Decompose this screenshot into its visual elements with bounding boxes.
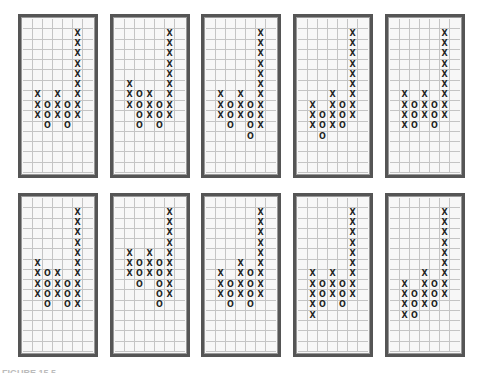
grid-cell — [328, 142, 338, 152]
grid-cell — [23, 50, 33, 60]
grid-cell — [390, 50, 400, 60]
grid-cell — [390, 321, 400, 331]
grid-cell — [318, 229, 328, 239]
grid-cell — [125, 321, 135, 331]
grid-cell — [23, 101, 33, 111]
grid-cell — [216, 60, 226, 70]
grid-cell — [308, 40, 318, 50]
pnf-chart-panel-3: XXXXXXXXXXOXOXXOXOXOOXO — [201, 14, 281, 178]
grid-cell — [63, 152, 73, 162]
grid-cell — [175, 311, 185, 321]
grid-cell — [246, 321, 256, 331]
x-mark: X — [348, 280, 358, 290]
grid-cell — [390, 19, 400, 29]
grid-cell — [23, 111, 33, 121]
grid-cell — [328, 249, 338, 259]
grid-cell — [206, 208, 216, 218]
grid-cell — [266, 40, 276, 50]
grid-cell — [125, 152, 135, 162]
x-mark: X — [420, 101, 430, 111]
o-mark: O — [246, 101, 256, 111]
grid-cell — [115, 311, 125, 321]
x-mark: X — [348, 249, 358, 259]
x-mark: X — [125, 91, 135, 101]
grid-cell — [145, 19, 155, 29]
x-mark: X — [165, 260, 175, 270]
o-mark: O — [410, 101, 420, 111]
grid-cell — [206, 152, 216, 162]
grid-cell — [246, 260, 256, 270]
grid-cell — [115, 198, 125, 208]
grid-cell — [135, 152, 145, 162]
x-mark: X — [33, 91, 43, 101]
grid-cell — [410, 19, 420, 29]
grid-cell — [63, 29, 73, 39]
grid-cell — [83, 111, 93, 121]
grid-cell — [216, 331, 226, 341]
grid-cell — [308, 163, 318, 173]
x-mark: X — [73, 208, 83, 218]
o-mark: O — [246, 111, 256, 121]
grid-cell — [298, 111, 308, 121]
grid-cell — [83, 311, 93, 321]
grid-cell — [390, 152, 400, 162]
grid-cell — [165, 342, 175, 352]
x-mark: X — [145, 101, 155, 111]
grid-cell — [125, 19, 135, 29]
grid-cell — [206, 40, 216, 50]
x-mark: X — [328, 111, 338, 121]
x-mark: X — [165, 229, 175, 239]
grid-cell — [53, 19, 63, 29]
grid-cell — [400, 331, 410, 341]
grid-cell — [155, 208, 165, 218]
grid-cell — [298, 132, 308, 142]
o-mark: O — [430, 290, 440, 300]
grid-cell — [308, 60, 318, 70]
grid-cell — [206, 91, 216, 101]
grid-cell — [125, 290, 135, 300]
grid-cell — [135, 321, 145, 331]
grid-cell — [83, 198, 93, 208]
grid-cell — [450, 249, 460, 259]
grid-cell — [125, 111, 135, 121]
grid-cell — [115, 91, 125, 101]
grid-cell — [135, 50, 145, 60]
grid-cell — [246, 50, 256, 60]
x-mark: X — [53, 290, 63, 300]
grid-cell — [33, 50, 43, 60]
grid-cell — [125, 29, 135, 39]
x-mark: X — [73, 91, 83, 101]
grid-cell — [73, 321, 83, 331]
grid-cell — [83, 29, 93, 39]
grid-cell — [236, 249, 246, 259]
grid-cell — [135, 163, 145, 173]
grid-cell — [43, 60, 53, 70]
grid-cell — [175, 342, 185, 352]
grid-cell — [125, 122, 135, 132]
x-mark: X — [216, 111, 226, 121]
grid-cell — [348, 163, 358, 173]
x-mark: X — [73, 70, 83, 80]
grid-cell — [246, 229, 256, 239]
grid-cell — [83, 260, 93, 270]
grid-cell — [246, 208, 256, 218]
grid-cell — [115, 142, 125, 152]
o-mark: O — [246, 290, 256, 300]
grid-cell — [328, 311, 338, 321]
grid-cell — [155, 152, 165, 162]
x-mark: X — [165, 50, 175, 60]
grid-cell — [338, 321, 348, 331]
o-mark: O — [246, 270, 256, 280]
grid-cell — [256, 132, 266, 142]
grid-cell — [23, 260, 33, 270]
x-mark: X — [73, 229, 83, 239]
grid-cell — [420, 50, 430, 60]
grid-cell — [400, 40, 410, 50]
grid-cell — [83, 132, 93, 142]
pnf-grid: XXXXXXXXXXOXXOXOXXOXOO — [298, 19, 368, 173]
x-mark: X — [308, 301, 318, 311]
o-mark: O — [246, 280, 256, 290]
grid-cell — [390, 91, 400, 101]
x-mark: X — [420, 301, 430, 311]
grid-cell — [420, 142, 430, 152]
